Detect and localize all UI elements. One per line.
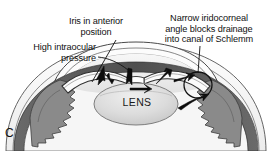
label-high-intraocular-pressure: High intraocular pressure: [4, 42, 96, 63]
panel-letter: C: [5, 126, 14, 140]
label-narrow-iridocorneal-angle: Narrow iridocorneal angle blocks drainag…: [150, 13, 268, 45]
label-iris-anterior-position: Iris in anterior position: [58, 16, 134, 37]
glaucoma-figure-panel-c: Iris in anterior position High intraocul…: [0, 0, 272, 151]
label-lens: LENS: [105, 96, 169, 108]
